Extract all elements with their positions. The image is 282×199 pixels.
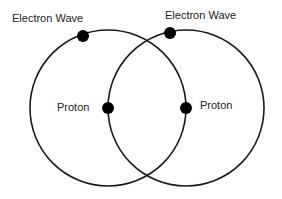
proton-right-dot bbox=[180, 102, 192, 114]
electron-wave-label-left: Electron Wave bbox=[12, 13, 83, 24]
electron-wave-diagram: Electron Wave Electron Wave Proton Proto… bbox=[0, 0, 282, 199]
electron-left-dot bbox=[77, 30, 89, 42]
proton-left-dot bbox=[102, 102, 114, 114]
proton-label-right: Proton bbox=[200, 100, 232, 111]
electron-wave-label-right: Electron Wave bbox=[165, 10, 236, 21]
diagram-canvas bbox=[0, 0, 282, 199]
proton-label-left: Proton bbox=[57, 102, 89, 113]
electron-right-dot bbox=[164, 27, 176, 39]
